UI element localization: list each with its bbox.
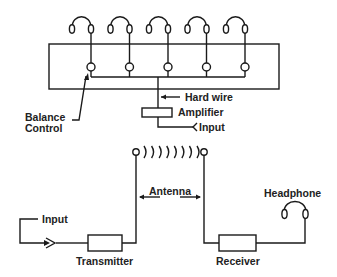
amplifier-label: Amplifier [178,106,224,118]
radio-wave-arc [182,146,184,158]
radio-wave-arc [144,146,146,158]
antenna-label: Antenna [149,185,191,197]
headphone-icon [282,202,308,219]
right-earcup [165,25,170,33]
radio-wave-arc [174,146,176,158]
headphone-label: Headphone [264,187,321,199]
transmitter-label: Transmitter [76,255,133,267]
receiver-box [219,235,256,251]
left-earcup [223,25,228,33]
right-earcup [204,25,209,33]
headphone-jack [203,63,211,71]
right-earcup [242,25,247,33]
receiver-antenna-wire [204,155,219,243]
radio-wave-arc [152,146,154,158]
receiver-output-wire [256,214,305,243]
radio-wave-arc [167,146,169,158]
input-connector-icon [193,123,197,131]
left-earcup [185,25,190,33]
arrowhead-icon [139,195,144,200]
radio-wave-arc [189,146,191,158]
headset [69,17,95,77]
headphone-jack [87,63,95,71]
left-earcup [108,25,113,33]
transmitter-antenna-tip [133,149,139,155]
headset [146,17,172,77]
balance-control-pointer [72,76,86,120]
balance-control-label-2: Control [25,122,62,134]
headphone-jack [126,63,134,71]
headset [185,17,211,77]
right-earcup [127,25,132,33]
transmitter-box [88,235,122,251]
radio-wave-arc [159,146,161,158]
wireless-vs-wired-headphone-diagram: Balance Control Hard wire Amplifier Inpu… [0,0,337,277]
left-earcup [146,25,151,33]
left-earcup [69,25,74,33]
receiver-antenna-tip [201,149,207,155]
hardwired-system: Balance Control Hard wire Amplifier Inpu… [25,17,279,134]
right-earcup [88,25,93,33]
headphone-jack [164,63,172,71]
radio-wave-arc [197,146,199,158]
headset [223,17,249,77]
arrowhead-icon [161,95,166,100]
headphone-jack [241,63,249,71]
amplifier-input-label: Input [199,121,225,133]
amplifier-box [142,108,172,117]
arrowhead-icon [84,73,89,80]
receiver-label: Receiver [216,255,260,267]
arrowhead-icon [196,195,201,200]
radio-waves [144,146,199,158]
arrowhead-icon [44,240,50,246]
wireless-system: Antenna Input Transmitter Receiver Headp… [20,146,321,267]
amplifier-input-wire [158,117,193,127]
transmitter-antenna-wire [122,155,136,243]
transmitter-input-label: Input [42,213,68,225]
headset [108,17,134,77]
hard-wire-label: Hard wire [185,91,233,103]
